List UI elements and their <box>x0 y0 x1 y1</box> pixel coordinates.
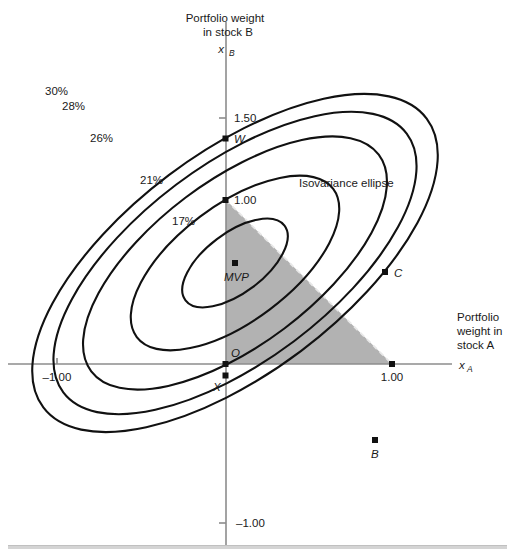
contour-label-28: 28% <box>62 100 85 112</box>
y-tick-label-neg100: –1.00 <box>236 517 265 529</box>
figure-bottom-rule <box>8 545 507 549</box>
isovariance-ellipse-annotation: Isovariance ellipse <box>299 177 394 189</box>
x-axis-title-line2: weight in <box>456 325 502 337</box>
isovariance-ellipse-chart: Portfolio weight in stock B x B Portfoli… <box>0 0 515 558</box>
contour-label-30: 30% <box>45 85 68 97</box>
point-label-mvp: MVP <box>224 271 249 283</box>
point-label-c: C <box>394 267 403 279</box>
figure-container: Portfolio weight in stock B x B Portfoli… <box>0 0 515 558</box>
x-tick-label-neg100: –1.00 <box>43 371 72 383</box>
point-label-o: O <box>231 347 240 359</box>
x-axis-title-line3: stock A <box>457 339 494 351</box>
contour-label-17: 17% <box>172 215 195 227</box>
y-axis-symbol: x <box>217 43 225 55</box>
point-marker-c <box>382 269 388 275</box>
contour-label-21: 21% <box>140 174 163 186</box>
y-axis-title-line1: Portfolio weight <box>186 12 265 24</box>
point-label-b: B <box>371 448 379 460</box>
y-tick-label-150: 1.50 <box>234 112 256 124</box>
point-marker-o <box>223 361 229 367</box>
y-tick-label-100: 1.00 <box>234 194 256 206</box>
point-marker-mvp <box>232 260 238 266</box>
contour-label-26: 26% <box>90 132 113 144</box>
point-marker-100-x <box>389 361 395 367</box>
point-label-w: W <box>234 133 246 145</box>
x-tick-label-100: 1.00 <box>381 371 403 383</box>
point-marker-100-y <box>223 197 229 203</box>
x-axis-symbol-subscript: A <box>466 364 473 374</box>
y-axis-symbol-subscript: B <box>229 48 235 58</box>
point-marker-b <box>372 437 378 443</box>
point-marker-w <box>223 136 229 142</box>
x-axis-title-line1: Portfolio <box>457 311 499 323</box>
point-marker-x <box>223 373 229 379</box>
x-axis-symbol: x <box>458 359 466 371</box>
point-label-x: X <box>212 381 222 393</box>
y-axis-title-line2: in stock B <box>203 26 253 38</box>
